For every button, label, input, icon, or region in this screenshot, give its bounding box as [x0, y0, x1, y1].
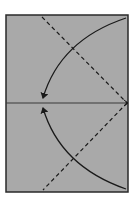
- origami-fold-diagram: [0, 0, 131, 203]
